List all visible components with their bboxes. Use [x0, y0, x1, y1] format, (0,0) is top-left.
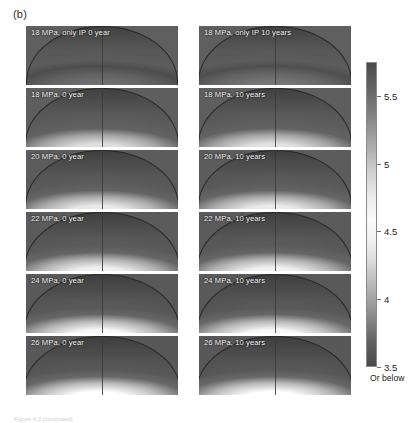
contour-panel: 18 MPa, 0 year: [26, 88, 178, 147]
contour-panel: 18 MPa, only IP 0 year: [26, 26, 178, 85]
colorbar-tick: [377, 299, 381, 300]
contour-panel: 18 MPa, 10 years: [199, 88, 351, 147]
panel-label: 18 MPa, 10 years: [204, 90, 265, 99]
colorbar-tick: [377, 367, 381, 368]
panel-label: 22 MPa, 0 year: [31, 214, 84, 223]
colorbar-tick-label: 4.5: [384, 226, 397, 237]
colorbar-tick-label: 3.5: [384, 362, 397, 373]
contour-panel: 22 MPa, 0 year: [26, 212, 178, 271]
contour-panel: 20 MPa, 0 year: [26, 150, 178, 209]
panel-label: 20 MPa, 0 year: [31, 152, 84, 161]
panel-centerline: [275, 88, 276, 147]
panel-label: 26 MPa, 0 year: [31, 338, 84, 347]
contour-panel: 24 MPa, 0 year: [26, 274, 178, 333]
panel-centerline: [275, 274, 276, 333]
panel-grid: 18 MPa, only IP 0 year18 MPa, only IP 10…: [0, 0, 418, 423]
colorbar: 5.554.543.5Or below: [366, 62, 377, 367]
contour-panel: 18 MPa, only IP 10 years: [199, 26, 351, 85]
panel-centerline: [102, 150, 103, 209]
contour-panel: 20 MPa, 10 years: [199, 150, 351, 209]
figure-caption: Figure 4.3 (continued): [14, 416, 73, 423]
colorbar-tick-label: 5: [384, 158, 389, 169]
panel-label: 24 MPa, 10 years: [204, 276, 265, 285]
panel-centerline: [275, 212, 276, 271]
panel-centerline: [275, 336, 276, 395]
panel-label: 24 MPa, 0 year: [31, 276, 84, 285]
panel-label: 22 MPa, 10 years: [204, 214, 265, 223]
colorbar-below-min-note: Or below: [370, 373, 404, 383]
contour-panel: 22 MPa, 10 years: [199, 212, 351, 271]
contour-panel: 26 MPa, 0 year: [26, 336, 178, 395]
panel-label: 18 MPa, 0 year: [31, 90, 84, 99]
panel-centerline: [102, 336, 103, 395]
colorbar-tick: [377, 231, 381, 232]
colorbar-tick: [377, 164, 381, 165]
panel-label: 18 MPa, only IP 10 years: [204, 28, 291, 37]
contour-panel: 26 MPa, 10 years: [199, 336, 351, 395]
colorbar-tick-label: 5.5: [384, 90, 397, 101]
panel-label: 18 MPa, only IP 0 year: [31, 28, 110, 37]
colorbar-tick-label: 4: [384, 294, 389, 305]
panel-centerline: [275, 150, 276, 209]
panel-centerline: [102, 88, 103, 147]
colorbar-tick: [377, 96, 381, 97]
panel-centerline: [102, 274, 103, 333]
colorbar-gradient: [366, 62, 377, 367]
contour-panel: 24 MPa, 10 years: [199, 274, 351, 333]
panel-label: 20 MPa, 10 years: [204, 152, 265, 161]
panel-label: 26 MPa, 10 years: [204, 338, 265, 347]
figure-panel-b: (b) 18 MPa, only IP 0 year18 MPa, only I…: [0, 0, 418, 423]
panel-centerline: [102, 212, 103, 271]
